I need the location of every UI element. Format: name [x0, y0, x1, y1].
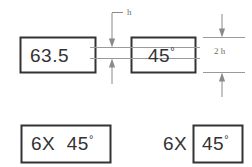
- degree-symbol-icon: °: [224, 133, 229, 145]
- h-arrow-down: [109, 39, 115, 48]
- frame-45-outside-value: 45: [202, 133, 224, 154]
- frame-6x-45-value-group: 6X 45°: [31, 134, 94, 153]
- frame-6x-45-value: 6X 45: [31, 133, 89, 154]
- h-arrow-up: [109, 59, 115, 68]
- frame-45-value: 45: [148, 45, 170, 66]
- frame-45-outside-value-group: 45°: [202, 134, 229, 153]
- frame-45-value-group: 45°: [148, 46, 175, 65]
- label-6x-outside: 6X: [163, 134, 187, 153]
- dimension-label-2h: 2 h: [214, 47, 225, 56]
- degree-symbol-icon: °: [170, 45, 175, 57]
- dimension-label-h: h: [127, 8, 132, 17]
- two-h-arrow-down: [219, 29, 225, 38]
- frame-63-5-value: 63.5: [30, 46, 69, 65]
- degree-symbol-icon: °: [89, 133, 94, 145]
- two-h-arrow-up: [219, 73, 225, 82]
